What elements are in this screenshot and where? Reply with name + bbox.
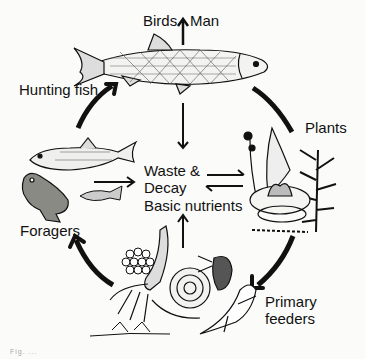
arrow-foragers-to-waste — [94, 177, 134, 187]
label-basic-nutrients: Basic nutrients — [144, 198, 242, 214]
small-fish-icon — [30, 138, 136, 170]
label-waste: Waste & — [144, 163, 200, 179]
figure-caption: Fig. ... — [10, 348, 37, 355]
water-lily-icon — [250, 184, 310, 222]
arrow-waste-plants-exchange — [206, 170, 244, 191]
arrow-primary-to-waste — [178, 215, 188, 248]
label-decay: Decay — [144, 180, 187, 196]
arrow-to-birds-man — [178, 19, 188, 45]
large-fish-icon — [74, 34, 268, 94]
label-plants: Plants — [305, 120, 347, 136]
bottom-insect-icon — [90, 322, 170, 336]
label-feeders: feeders — [265, 311, 315, 327]
label-man: Man — [190, 13, 219, 29]
label-primary: Primary — [265, 294, 317, 310]
label-hunting-fish: Hunting fish — [19, 82, 98, 98]
frog-icon — [22, 173, 68, 222]
label-birds: Birds — [143, 13, 177, 29]
egg-mass-icon — [122, 248, 154, 274]
stickleback-icon — [80, 186, 122, 201]
arc-primary-to-foragers — [76, 240, 113, 285]
arc-hunting-to-plants — [253, 88, 292, 132]
label-foragers: Foragers — [20, 223, 80, 239]
arc-plants-to-primary — [258, 236, 293, 285]
water-plants-icon — [244, 128, 336, 232]
arrow-fish-to-waste — [178, 103, 188, 148]
